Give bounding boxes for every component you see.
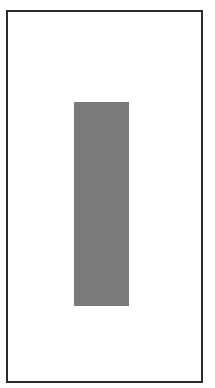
gray-bar <box>74 102 129 306</box>
bordered-frame <box>6 10 203 383</box>
